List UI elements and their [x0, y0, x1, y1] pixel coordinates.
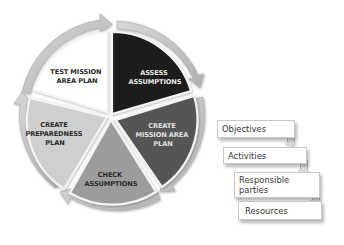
step-resources: Resources — [238, 201, 322, 220]
step-label: Activities — [228, 151, 266, 161]
step-label: Objectives — [222, 124, 266, 134]
planning-cycle-diagram: ASSESS ASSUMPTIONS CREATE MISSION AREA P… — [0, 0, 230, 245]
step-label-line-2: parties — [239, 185, 268, 195]
step-responsible-parties: Responsible parties — [234, 172, 320, 198]
step-activities: Activities — [223, 147, 307, 164]
step-label-line-1: Responsible — [239, 175, 289, 185]
label-test-mission-area-plan: TEST MISSION AREA PLAN — [50, 68, 103, 85]
step-label: Resources — [245, 206, 288, 216]
step-objectives: Objectives — [217, 120, 295, 138]
